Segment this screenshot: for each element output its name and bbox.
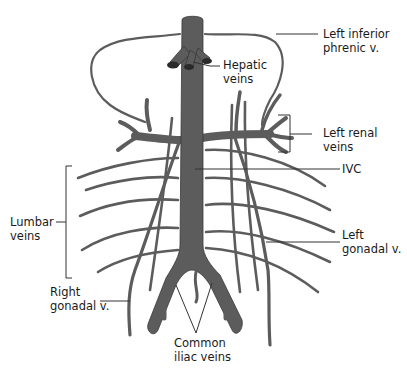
right-lumbar-veins [78,158,178,272]
label-common-iliac-veins: Common iliac veins [174,336,231,364]
median-sacral-vein [195,272,197,302]
right-gonadal-vein [129,140,180,335]
left-renal-vein [202,134,270,138]
label-hepatic-veins: Hepatic veins [223,58,267,86]
label-left-inferior-phrenic: Left inferior phrenic v. [323,27,390,55]
label-lumbar-veins: Lumbar veins [10,215,54,243]
leader-common-iliac [176,283,212,333]
label-ivc: IVC [342,162,361,176]
bracket-lumbar [56,166,72,278]
left-lumbar-veins [206,150,334,292]
ivc-diagram [0,0,407,373]
label-right-gonadal: Right gonadal v. [50,285,109,313]
label-left-renal-veins: Left renal veins [323,126,377,154]
right-renal-vein [135,136,182,140]
right-ascending-lumbar-vein [150,118,172,290]
label-left-gonadal: Left gonadal v. [342,228,401,256]
right-inferior-phrenic-vein [91,34,180,122]
